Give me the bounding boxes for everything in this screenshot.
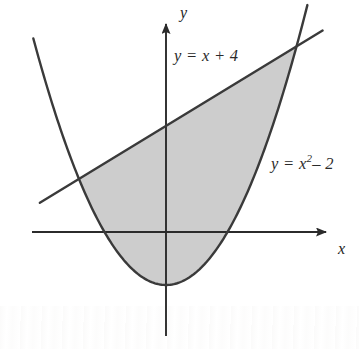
line-equation-label: y = x + 4 xyxy=(174,46,238,66)
parabola-label-suffix: – 2 xyxy=(312,154,334,173)
parabola-equation-label: y = x2– 2 xyxy=(271,152,334,174)
x-axis-label: x xyxy=(338,240,345,258)
math-figure: y = x + 4 y = x2– 2 y x xyxy=(0,0,359,349)
parabola-label-prefix: y = x xyxy=(271,154,307,173)
shaded-region-accurate xyxy=(79,47,297,286)
y-axis-label: y xyxy=(180,4,187,22)
